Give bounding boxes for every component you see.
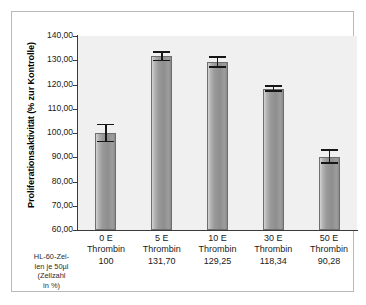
error-bar-cap-lower — [209, 66, 226, 68]
y-tick-mark — [73, 85, 77, 86]
error-bar-cap-lower — [265, 90, 282, 92]
corner-caption-line-2: len je 50µl — [26, 262, 77, 272]
error-bar — [97, 124, 114, 143]
corner-caption: HL-60-Zel- len je 50µl (Zellzahl in %) — [26, 252, 77, 290]
y-tick-mark — [73, 157, 77, 158]
error-bar-cap-lower — [97, 141, 114, 143]
y-tick-label: 80,00 — [31, 177, 73, 186]
x-category-label: 50 EThrombin90,28 — [292, 233, 366, 267]
y-tick-label: 110,00 — [31, 104, 73, 113]
error-bar-cap-upper — [321, 149, 338, 151]
corner-caption-line-3: (Zellzahl — [26, 271, 77, 281]
y-axis-line — [77, 35, 78, 231]
bar — [319, 157, 340, 230]
x-category-agent: Thrombin — [292, 244, 366, 255]
figure-frame: Proliferationsaktivität (% zur Kontrolle… — [11, 11, 354, 292]
error-bar — [265, 85, 282, 91]
error-bar-cap-upper — [209, 56, 226, 58]
y-tick-mark — [73, 182, 77, 183]
y-tick-label: 60,00 — [31, 225, 73, 234]
error-bar-cap-upper — [265, 85, 282, 87]
y-tick-mark — [73, 109, 77, 110]
error-bar-stem — [105, 124, 106, 143]
y-tick-label: 140,00 — [31, 31, 73, 40]
bar — [263, 89, 284, 230]
error-bar-cap-upper — [97, 124, 114, 126]
y-tick-label: 70,00 — [31, 201, 73, 210]
y-tick-mark — [73, 60, 77, 61]
bar — [207, 62, 228, 230]
corner-caption-line-1: HL-60-Zel- — [26, 252, 77, 262]
y-tick-mark — [73, 133, 77, 134]
y-tick-label: 120,00 — [31, 80, 73, 89]
corner-caption-line-4: in %) — [26, 281, 77, 291]
y-tick-mark — [73, 230, 77, 231]
chart-figure: Proliferationsaktivität (% zur Kontrolle… — [0, 0, 366, 305]
y-tick-label: 100,00 — [31, 128, 73, 137]
error-bar-cap-lower — [321, 162, 338, 164]
y-tick-mark — [73, 206, 77, 207]
bar — [151, 56, 172, 230]
bar — [95, 133, 116, 230]
error-bar — [321, 149, 338, 164]
x-category-dose: 50 E — [292, 233, 366, 244]
error-bar — [209, 56, 226, 68]
error-bar-cap-lower — [153, 60, 170, 62]
y-tick-label: 130,00 — [31, 55, 73, 64]
y-tick-label: 90,00 — [31, 152, 73, 161]
error-bar-cap-upper — [153, 51, 170, 53]
x-axis-line — [77, 230, 358, 231]
x-category-value: 90,28 — [292, 256, 366, 267]
y-tick-mark — [73, 36, 77, 37]
error-bar — [153, 51, 170, 62]
